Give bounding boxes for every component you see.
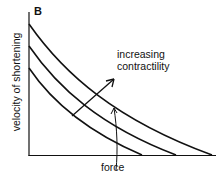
- curve-high: [29, 24, 212, 155]
- contractility-arrow: [72, 79, 114, 116]
- annotation-line-2: contractility: [117, 60, 170, 72]
- contractility-annotation: increasing contractility: [117, 48, 170, 72]
- force-velocity-diagram: [0, 0, 224, 181]
- annotation-line-1: increasing: [117, 48, 170, 60]
- panel-label: B: [34, 5, 42, 17]
- y-axis-label: velocity of shortening: [10, 33, 22, 132]
- x-axis-label: force: [101, 161, 124, 173]
- curve-baseline: [29, 68, 142, 155]
